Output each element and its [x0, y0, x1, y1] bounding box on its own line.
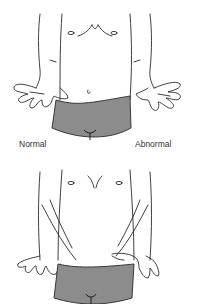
torso-illustration-bottom: [0, 160, 197, 304]
torso-illustration-top: [0, 0, 197, 145]
label-abnormal: Abnormal: [135, 139, 171, 149]
figure-hands-palms-up: Normal Abnormal: [0, 0, 197, 145]
figure-hands-palms-down: [0, 160, 197, 304]
shorts: [54, 264, 134, 304]
label-normal: Normal: [19, 139, 46, 149]
shorts: [52, 96, 131, 137]
